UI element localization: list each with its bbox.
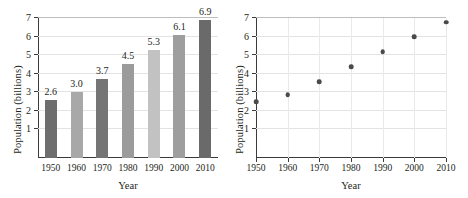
scatter-plot-x-tick-label: 1960 — [278, 164, 297, 174]
bar-chart-x-tick-label: 1990 — [144, 164, 163, 174]
population-scatter-plot-panel: Population (billions) 123456719501960197… — [234, 0, 468, 198]
scatter-plot-y-tick — [252, 128, 256, 129]
scatter-plot-data-point — [412, 35, 417, 40]
bar-chart-y-tick — [34, 54, 38, 55]
bar-chart-y-tick — [34, 110, 38, 111]
scatter-plot-x-tick — [288, 158, 289, 162]
bar-chart-x-axis-label: Year — [38, 180, 218, 191]
bar-chart-y-axis-label: Population (billions) — [12, 65, 23, 154]
bar-chart-y-tick-label: 5 — [26, 50, 31, 60]
scatter-plot-y-tick-label: 6 — [244, 32, 249, 42]
scatter-plot-y-tick — [252, 91, 256, 92]
bar-chart-x-tick-label: 2010 — [196, 164, 215, 174]
scatter-plot-vertical-gridline — [383, 18, 384, 158]
bar-chart-y-tick — [34, 91, 38, 92]
scatter-plot-x-tick-label: 1970 — [310, 164, 329, 174]
scatter-plot-data-point — [254, 100, 259, 105]
bar-chart-x-tick-label: 2000 — [170, 164, 189, 174]
bar-chart-bar — [199, 20, 211, 158]
scatter-plot-y-tick — [252, 110, 256, 111]
scatter-plot-y-axis — [256, 18, 257, 158]
bar-chart-y-tick-label: 7 — [26, 13, 31, 23]
bar-chart-bar — [45, 100, 57, 158]
bar-chart-value-label: 4.5 — [122, 51, 135, 61]
two-panel-population-figure: Population (billions) 12345672.619503.01… — [0, 0, 468, 198]
bar-chart-y-tick — [34, 73, 38, 74]
bar-chart-bar — [148, 50, 160, 158]
bar-chart-y-tick-label: 6 — [26, 32, 31, 42]
bar-chart-value-label: 2.6 — [45, 87, 58, 97]
bar-chart-value-label: 3.0 — [70, 79, 83, 89]
bar-chart-y-tick-label: 2 — [26, 106, 31, 116]
scatter-plot-plot-area: 12345671950196019701980199020002010 — [256, 18, 446, 158]
bar-chart-y-tick-label: 3 — [26, 87, 31, 97]
scatter-plot-x-axis-label: Year — [256, 180, 446, 191]
bar-chart-y-tick-label: 4 — [26, 69, 31, 79]
bar-chart-bar — [96, 79, 108, 158]
scatter-plot-x-tick — [351, 158, 352, 162]
scatter-plot-vertical-gridline — [351, 18, 352, 158]
population-bar-chart-panel: Population (billions) 12345672.619503.01… — [0, 0, 234, 198]
scatter-plot-x-tick — [383, 158, 384, 162]
scatter-plot-x-tick — [319, 158, 320, 162]
bar-chart-x-tick-label: 1960 — [67, 164, 86, 174]
scatter-plot-vertical-gridline — [288, 18, 289, 158]
scatter-plot-y-tick-label: 1 — [244, 124, 249, 134]
scatter-plot-y-tick-label: 7 — [244, 13, 249, 23]
bar-chart-value-label: 5.3 — [147, 37, 160, 47]
scatter-plot-x-tick-label: 1990 — [373, 164, 392, 174]
bar-chart-bar — [71, 92, 83, 158]
scatter-plot-y-tick-label: 4 — [244, 69, 249, 79]
bar-chart-x-tick-label: 1950 — [41, 164, 60, 174]
bar-chart-y-tick — [34, 128, 38, 129]
scatter-plot-data-point — [285, 92, 290, 97]
scatter-plot-data-point — [349, 64, 354, 69]
bar-chart-x-tick-label: 1980 — [119, 164, 138, 174]
bar-chart-y-axis — [38, 18, 39, 158]
scatter-plot-data-point — [444, 20, 449, 25]
scatter-plot-x-tick-label: 1950 — [247, 164, 266, 174]
bar-chart-plot-area: 12345672.619503.019603.719704.519805.319… — [38, 18, 218, 158]
scatter-plot-vertical-gridline — [319, 18, 320, 158]
scatter-plot-y-tick — [252, 54, 256, 55]
bar-chart-value-label: 3.7 — [96, 66, 109, 76]
bar-chart-gridline — [38, 36, 218, 37]
scatter-plot-x-tick-label: 2000 — [405, 164, 424, 174]
bar-chart-value-label: 6.1 — [173, 22, 186, 32]
scatter-plot-y-tick-label: 2 — [244, 106, 249, 116]
scatter-plot-x-tick — [446, 158, 447, 162]
bar-chart-bar — [122, 64, 134, 158]
bar-chart-y-tick-label: 1 — [26, 124, 31, 134]
scatter-plot-x-tick — [414, 158, 415, 162]
scatter-plot-y-tick — [252, 73, 256, 74]
scatter-plot-y-tick — [252, 36, 256, 37]
bar-chart-value-label: 6.9 — [199, 7, 212, 17]
scatter-plot-x-tick-label: 1980 — [342, 164, 361, 174]
scatter-plot-y-tick-label: 5 — [244, 50, 249, 60]
bar-chart-y-tick — [34, 36, 38, 37]
bar-chart-x-tick-label: 1970 — [93, 164, 112, 174]
scatter-plot-x-tick-label: 2010 — [437, 164, 456, 174]
bar-chart-top-frame — [38, 17, 218, 18]
bar-chart-bar — [173, 35, 185, 158]
scatter-plot-x-tick — [256, 158, 257, 162]
scatter-plot-data-point — [317, 79, 322, 84]
scatter-plot-vertical-gridline — [446, 18, 447, 158]
scatter-plot-y-tick-label: 3 — [244, 87, 249, 97]
scatter-plot-data-point — [380, 50, 385, 55]
